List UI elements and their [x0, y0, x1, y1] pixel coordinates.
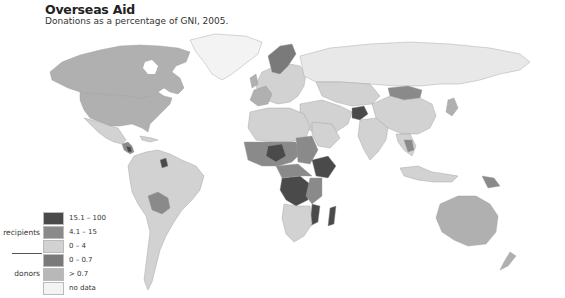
legend-label-15-100: 15.1 – 100: [69, 214, 106, 222]
region-south-america: [128, 150, 204, 290]
region-ethiopia: [312, 156, 336, 178]
legend-label-no-data: no data: [69, 284, 96, 292]
region-india: [358, 118, 388, 160]
region-canada: [50, 45, 190, 98]
legend-label-0-4: 0 – 4: [69, 242, 86, 250]
region-greenland: [190, 34, 262, 80]
region-png: [482, 176, 500, 188]
region-indonesia: [400, 166, 458, 182]
region-new-zealand: [500, 252, 516, 270]
legend-label-4-15: 4.1 – 15: [69, 228, 97, 236]
legend-swatch-4-15: [43, 226, 64, 239]
legend-swatch-donor-0-07: [43, 254, 64, 267]
region-north-africa: [248, 108, 310, 142]
region-afghanistan: [352, 106, 368, 120]
legend-label-donor-0-07: 0 – 0.7: [69, 256, 93, 264]
region-drc: [280, 176, 310, 206]
legend-swatch-0-4: [43, 240, 64, 253]
region-madagascar: [328, 206, 336, 226]
legend-divider: [12, 253, 42, 254]
region-east-africa: [306, 178, 322, 204]
region-japan: [446, 98, 458, 116]
map-legend: 15.1 – 100 4.1 – 15 0 – 4 0 – 0.7 > 0.7 …: [0, 212, 130, 298]
legend-swatch-15-100: [43, 212, 64, 225]
region-australia: [436, 196, 498, 246]
region-central-africa: [276, 164, 312, 178]
region-southern-africa: [282, 204, 312, 242]
legend-swatch-no-data: [43, 282, 64, 295]
legend-group-recipients: recipients: [2, 228, 40, 237]
legend-swatch-donor-07: [43, 268, 64, 281]
legend-label-donor-07: > 0.7: [69, 270, 88, 278]
region-russia: [300, 42, 530, 86]
legend-group-donors: donors: [2, 269, 40, 278]
